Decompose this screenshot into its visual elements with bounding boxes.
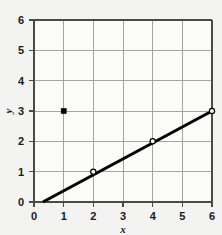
data-point-marker — [209, 108, 214, 113]
data-point-marker — [91, 169, 96, 174]
y-tick-label-2: 2 — [18, 135, 24, 147]
x-tick-label-0: 0 — [31, 210, 37, 222]
y-tick-label-6: 6 — [18, 14, 24, 26]
isolated-data-point — [61, 109, 66, 114]
x-tick-label-1: 1 — [61, 210, 67, 222]
x-axis-title: x — [119, 223, 126, 235]
data-point-marker — [150, 139, 155, 144]
y-tick-label-5: 5 — [18, 44, 24, 56]
y-tick-label-1: 1 — [18, 166, 24, 178]
y-tick-label-3: 3 — [18, 105, 24, 117]
x-tick-label-5: 5 — [179, 210, 185, 222]
x-tick-label-4: 4 — [150, 210, 157, 222]
y-tick-label-0: 0 — [18, 196, 24, 208]
x-tick-label-2: 2 — [90, 210, 96, 222]
y-tick-label-4: 4 — [18, 75, 25, 87]
y-axis-title: y — [2, 108, 14, 115]
x-tick-label-6: 6 — [209, 210, 215, 222]
chart-figure: 0 1 2 3 4 5 6 0 1 2 3 4 5 6 x y — [0, 0, 222, 235]
line-chart: 0 1 2 3 4 5 6 0 1 2 3 4 5 6 x y — [0, 0, 222, 235]
x-tick-label-3: 3 — [120, 210, 126, 222]
